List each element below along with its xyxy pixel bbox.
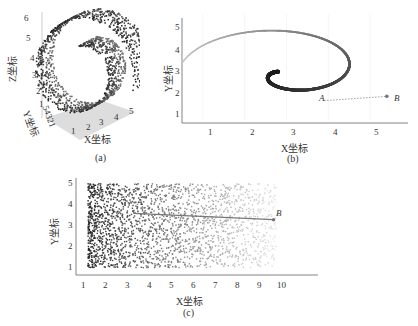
z-tick: 4 [30, 53, 35, 63]
y-tick: 4 [68, 199, 73, 209]
chart-a: 6 5 4 3 2 1 Z坐标 54321 Y坐标 1 2 3 4 5 X坐标 … [0, 0, 140, 170]
y-axis-label: Y坐标 [160, 65, 175, 92]
chart-b: 5 4 3 2 1 Y坐标 1 2 3 4 5 X坐标 (b) A B [140, 0, 418, 170]
y-tick: 1 [68, 262, 73, 272]
x-tick: 3 [291, 127, 296, 137]
x-tick: 8 [235, 280, 240, 290]
caption-b: (b) [287, 153, 299, 164]
x-tick: 9 [257, 280, 262, 290]
x-tick: 1 [81, 280, 86, 290]
x-tick: 3 [99, 117, 104, 127]
z-tick: 3 [32, 70, 37, 80]
x-tick: 4 [333, 127, 338, 137]
z-tick: 5 [26, 33, 31, 43]
x-tick: 5 [129, 106, 134, 116]
caption-c: (c) [183, 307, 194, 318]
x-tick: 3 [125, 280, 130, 290]
x-tick: 5 [374, 127, 379, 137]
x-tick: 1 [71, 126, 76, 136]
x-tick: 1 [208, 127, 213, 137]
x-tick: 2 [250, 127, 255, 137]
x-tick: 6 [191, 280, 196, 290]
y-tick: 2 [68, 241, 73, 251]
x-tick: 4 [114, 112, 119, 122]
x-tick: 7 [213, 280, 218, 290]
y-axis-label: Y坐标 [46, 218, 61, 245]
x-tick: 2 [103, 280, 108, 290]
x-tick: 4 [147, 280, 152, 290]
caption-a: (a) [95, 152, 106, 163]
y-tick: 3 [68, 220, 73, 230]
y-tick: 3 [175, 66, 180, 76]
z-tick: 2 [36, 86, 41, 96]
y-tick: 1 [175, 109, 180, 119]
x-tick: 5 [169, 280, 174, 290]
x-tick: 10 [277, 280, 286, 290]
x-axis-label: X坐标 [176, 293, 203, 308]
y-tick: 2 [175, 88, 180, 98]
y-tick: 5 [68, 178, 73, 188]
point-label-b: B [394, 93, 400, 103]
chart-a-plot [0, 0, 140, 170]
z-tick: 6 [24, 13, 29, 23]
point-label-a: A [137, 197, 143, 207]
point-label-a: A [319, 93, 325, 103]
y-tick: 4 [175, 45, 180, 55]
z-axis-label: Z坐标 [4, 56, 19, 82]
point-label-b: B [276, 208, 282, 218]
x-axis-label: X坐标 [84, 131, 111, 146]
chart-c: 5 4 3 2 1 Y坐标 1 2 3 4 5 6 7 8 9 10 X坐标 (… [40, 170, 340, 326]
chart-b-plot [140, 0, 418, 170]
y-tick: 5 [175, 22, 180, 32]
